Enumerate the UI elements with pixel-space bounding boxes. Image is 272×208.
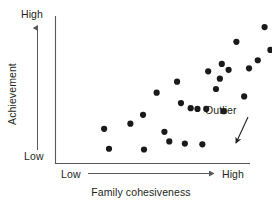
outlier-annotation-label: Outlier bbox=[205, 104, 237, 116]
data-point bbox=[246, 65, 252, 71]
data-point bbox=[241, 93, 247, 99]
y-axis-high-label: High bbox=[21, 8, 43, 20]
data-point bbox=[182, 140, 188, 146]
y-axis-title: Achievement bbox=[6, 56, 18, 132]
data-point bbox=[219, 61, 225, 67]
data-point bbox=[261, 24, 267, 30]
scatterplot-figure: High Low Achievement Low High Family coh… bbox=[0, 0, 272, 208]
scatter-points bbox=[101, 15, 272, 164]
x-axis-high-label: High bbox=[222, 168, 244, 180]
x-axis-low-label: Low bbox=[61, 168, 81, 180]
data-point bbox=[174, 79, 180, 85]
data-point bbox=[226, 67, 232, 73]
data-point bbox=[199, 141, 205, 147]
data-point bbox=[101, 126, 107, 132]
outlier-callout-arrow bbox=[236, 117, 248, 143]
data-point bbox=[166, 138, 172, 144]
data-point bbox=[205, 68, 211, 74]
data-point bbox=[106, 146, 112, 152]
data-point bbox=[267, 47, 272, 53]
data-point bbox=[233, 39, 239, 45]
y-axis-low-label: Low bbox=[24, 150, 44, 162]
data-point bbox=[213, 86, 219, 92]
data-point bbox=[178, 100, 184, 106]
data-point bbox=[188, 105, 194, 111]
x-axis-title: Family cohesiveness bbox=[86, 186, 196, 198]
axis-frame bbox=[56, 16, 251, 164]
data-point bbox=[194, 106, 200, 112]
data-point bbox=[154, 90, 160, 96]
data-point bbox=[127, 121, 133, 127]
data-point bbox=[140, 112, 146, 118]
data-point bbox=[255, 57, 261, 63]
data-point bbox=[141, 146, 147, 152]
data-point bbox=[161, 129, 167, 135]
data-point bbox=[217, 76, 223, 82]
